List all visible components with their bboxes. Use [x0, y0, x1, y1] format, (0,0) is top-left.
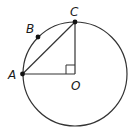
point-a — [20, 72, 25, 77]
label-a: A — [7, 68, 16, 82]
label-c: C — [70, 5, 79, 19]
right-angle-marker — [66, 65, 75, 74]
geometry-diagram: A B C O — [0, 0, 132, 130]
label-o: O — [71, 79, 80, 93]
label-b: B — [26, 22, 34, 36]
point-b — [36, 35, 41, 40]
point-c — [73, 20, 78, 25]
